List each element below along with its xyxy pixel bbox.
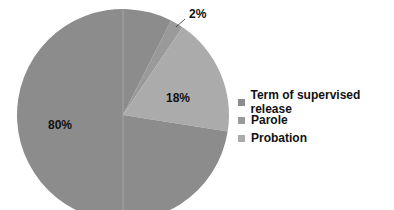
legend-item-probation: Probation <box>238 129 394 147</box>
legend-swatch-icon <box>238 135 245 142</box>
slice-label-probation: 18% <box>166 91 190 105</box>
legend-swatch-icon <box>238 99 245 106</box>
slice-label-supervised: 80% <box>48 118 72 132</box>
legend-label: Probation <box>251 131 307 145</box>
legend-item-supervised: Term of supervised release <box>238 93 394 111</box>
slice-label-parole: 2% <box>189 7 206 21</box>
legend: Term of supervised release Parole Probat… <box>238 93 394 147</box>
legend-swatch-icon <box>238 117 245 124</box>
legend-label: Term of supervised release <box>251 88 394 116</box>
legend-label: Parole <box>251 113 288 127</box>
parole-leader-line <box>176 19 185 27</box>
